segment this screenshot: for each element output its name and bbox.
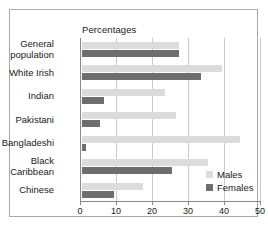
bar-females-3: [82, 120, 100, 127]
xtick-label-0: 0: [65, 206, 95, 216]
legend-label-males: Males: [217, 169, 242, 180]
legend-item-males: Males: [206, 168, 253, 181]
gridline-30: [188, 38, 189, 201]
gridline-20: [152, 38, 153, 201]
xtick-label-30: 30: [173, 206, 203, 216]
axis-tick-0: [80, 201, 81, 205]
category-label-4: Bangladeshi: [0, 137, 54, 148]
bar-males-4: [82, 136, 240, 143]
xtick-label-50: 50: [245, 206, 268, 216]
category-label-6: Chinese: [0, 184, 54, 195]
bar-females-0: [82, 50, 179, 57]
bar-males-3: [82, 112, 176, 119]
legend-swatch-females-icon: [206, 184, 213, 191]
legend-swatch-males-icon: [206, 171, 213, 178]
category-label-1: White Irish: [0, 67, 54, 78]
chart-frame: Percentages 0 10 20 30 40 50 Generalpopu…: [9, 9, 258, 217]
gridline-50: [260, 38, 261, 201]
figure: Percentages 0 10 20 30 40 50 Generalpopu…: [0, 0, 268, 233]
bar-males-2: [82, 89, 165, 96]
bar-males-6: [82, 183, 143, 190]
axis-tick-50: [260, 201, 261, 205]
chart-title: Percentages: [82, 24, 136, 35]
axis-tick-20: [152, 201, 153, 205]
bar-females-1: [82, 73, 201, 80]
bar-females-6: [82, 191, 114, 198]
legend-item-females: Females: [206, 181, 253, 194]
bar-females-2: [82, 97, 104, 104]
bar-males-0: [82, 42, 179, 49]
axis-tick-30: [188, 201, 189, 205]
axis-tick-10: [116, 201, 117, 205]
category-label-3: Pakistani: [0, 114, 54, 125]
gridline-10: [116, 38, 117, 201]
category-label-5: BlackCaribbean: [0, 155, 54, 177]
xtick-label-40: 40: [209, 206, 239, 216]
xtick-label-20: 20: [137, 206, 167, 216]
chart-legend: Males Females: [206, 168, 253, 194]
category-label-2: Indian: [0, 90, 54, 101]
axis-tick-40: [224, 201, 225, 205]
category-label-0: Generalpopulation: [0, 38, 54, 60]
legend-label-females: Females: [217, 182, 253, 193]
bar-males-1: [82, 65, 222, 72]
bar-males-5: [82, 159, 208, 166]
bar-females-4: [82, 144, 86, 151]
xtick-label-10: 10: [101, 206, 131, 216]
bar-females-5: [82, 167, 172, 174]
